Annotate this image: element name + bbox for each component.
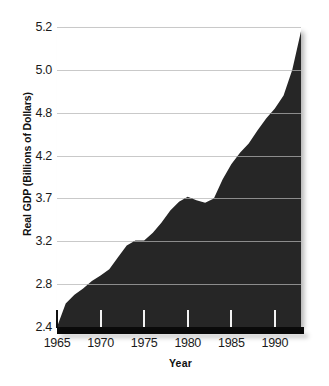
- x-axis-tick-label: 1985: [218, 336, 245, 350]
- x-axis-tick-label: 1970: [87, 336, 114, 350]
- x-axis-tick-label: 1990: [262, 336, 289, 350]
- y-axis-tick-label: 2.4: [6, 320, 52, 334]
- plot-area: [57, 27, 301, 327]
- x-axis-tick-label: 1965: [44, 336, 71, 350]
- x-axis-baseline: [57, 327, 304, 334]
- y-axis-tick-label: 5.2: [6, 20, 52, 34]
- x-axis-title: Year: [57, 357, 304, 369]
- x-axis-tick-mark: [230, 310, 232, 327]
- chart-figure: Real GDP (Billions of Dollars) 2.42.83.2…: [0, 0, 329, 386]
- x-axis-tick-mark: [274, 310, 276, 327]
- y-axis-tick-label: 3.7: [6, 191, 52, 205]
- y-axis-tick-label: 2.8: [6, 277, 52, 291]
- y-axis-tick-label: 3.2: [6, 234, 52, 248]
- y-axis-tick-label: 5.0: [6, 63, 52, 77]
- area-chart-svg: [57, 27, 301, 327]
- y-axis-tick-label: 4.2: [6, 149, 52, 163]
- y-axis-tick-labels: 2.42.83.23.74.24.85.05.2: [5, 0, 52, 386]
- y-axis-tick-label: 4.8: [6, 106, 52, 120]
- x-axis-tick-mark: [100, 310, 102, 327]
- x-axis-tick-mark: [56, 310, 58, 327]
- x-axis-tick-mark: [187, 310, 189, 327]
- x-axis-tick-label: 1980: [174, 336, 201, 350]
- x-axis-tick-label: 1975: [131, 336, 158, 350]
- x-axis-tick-mark: [143, 310, 145, 327]
